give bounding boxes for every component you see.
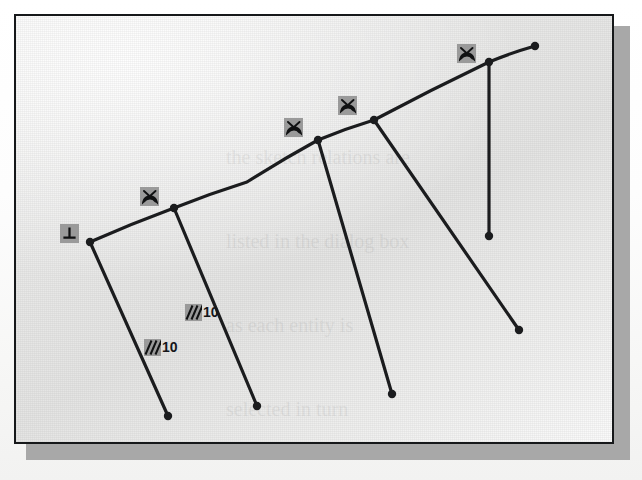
tangent-icon: [340, 98, 356, 114]
rib-5-endpoint: [485, 232, 493, 240]
tangent-constraint-marker-1[interactable]: [140, 187, 159, 206]
equal-length-icon: [185, 304, 202, 321]
equal-length-dimension-1[interactable]: 10: [185, 304, 219, 321]
tangent-icon: [142, 189, 158, 205]
spine-vertex-5: [485, 58, 493, 66]
spine-vertex-1: [86, 238, 94, 246]
figure-plate: the sketch relations are listed in the d…: [14, 14, 614, 444]
tangent-constraint-marker-3[interactable]: [338, 96, 357, 115]
perpendicular-icon: [62, 226, 77, 241]
rib-2-endpoint: [253, 402, 261, 410]
spine-vertex-3: [314, 136, 322, 144]
rib-1: [90, 242, 168, 416]
rib-4-endpoint: [515, 326, 523, 334]
vertex-nodes-group: [86, 42, 539, 420]
spine-endpoint: [531, 42, 539, 50]
tangent-icon: [459, 46, 475, 62]
spine-vertex-2: [170, 204, 178, 212]
rib-3: [318, 140, 392, 394]
equal-length-dimension-1-value: 10: [203, 304, 219, 321]
rib-4: [374, 120, 519, 330]
equal-length-icon: [144, 339, 161, 356]
perpendicular-constraint-marker[interactable]: [60, 224, 79, 243]
rib-1-endpoint: [164, 412, 172, 420]
equal-length-dimension-2-value: 10: [162, 339, 178, 356]
rib-lines-group: [90, 62, 519, 416]
cad-sketch-drawing: [16, 16, 614, 444]
spine-line-group: [90, 46, 535, 242]
tangent-icon: [286, 120, 302, 136]
rib-3-endpoint: [388, 390, 396, 398]
tangent-arc-spine: [90, 46, 535, 242]
tangent-constraint-marker-2[interactable]: [284, 118, 303, 137]
spine-vertex-4: [370, 116, 378, 124]
tangent-constraint-marker-4[interactable]: [457, 44, 476, 63]
equal-length-dimension-2[interactable]: 10: [144, 339, 178, 356]
